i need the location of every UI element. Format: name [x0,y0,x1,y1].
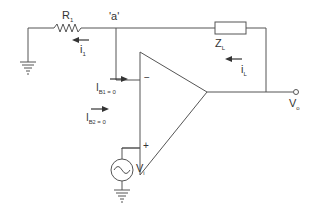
impedance-zl-icon [215,22,246,34]
label-r1: R1 [62,10,73,23]
label-ib2: IB2 = 0 [86,113,106,125]
label-vo: Vo [289,98,300,111]
arrow-ib1-icon [110,76,128,82]
label-i1: i1 [80,44,86,57]
label-node-a: 'a' [109,11,119,22]
wire-right-feedback [246,28,266,92]
opamp-icon [140,52,207,175]
wire-noninverting-input [122,148,140,159]
opamp-minus-sign: − [144,73,150,83]
ground-icon [20,62,36,74]
arrow-il-icon [225,56,242,62]
label-vi: Vi [136,163,145,176]
ground-icon [114,190,130,202]
resistor-r1-icon [54,24,81,32]
circuit-diagram [0,0,314,208]
label-zl: ZL [215,38,225,51]
label-il: iL [241,64,247,77]
opamp-plus-sign: + [143,141,149,151]
arrow-ib2-icon [91,106,109,112]
wire-inverting-input [116,28,140,80]
output-terminal-icon [294,90,299,95]
label-ib1: IB1 = 0 [96,83,116,95]
sine-wave-icon [114,167,130,174]
